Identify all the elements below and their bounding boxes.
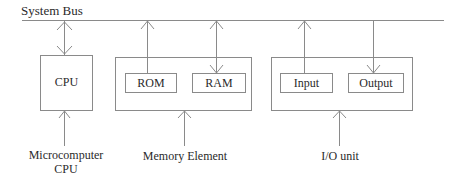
cpu-input-arrow [59, 111, 70, 146]
io-input-arrow [333, 111, 346, 146]
output-label: Output [348, 76, 404, 90]
cpu-caption-line1: Microcomputer [26, 148, 106, 162]
memory-element-caption: Memory Element [135, 149, 235, 163]
output-bus-arrow [367, 21, 380, 73]
input-label: Input [280, 76, 333, 90]
cpu-caption-line2: CPU [26, 162, 106, 176]
rom-label: ROM [125, 76, 177, 90]
ram-label: RAM [192, 76, 246, 90]
rom-bus-arrow [141, 21, 154, 73]
cpu-bus-arrow [57, 21, 72, 55]
ram-bus-arrow [210, 21, 223, 73]
system-bus-label: System Bus [21, 4, 83, 18]
cpu-label: CPU [40, 75, 93, 89]
io-unit-caption: I/O unit [310, 149, 370, 163]
memory-input-arrow [178, 111, 191, 146]
input-bus-arrow [298, 21, 311, 73]
